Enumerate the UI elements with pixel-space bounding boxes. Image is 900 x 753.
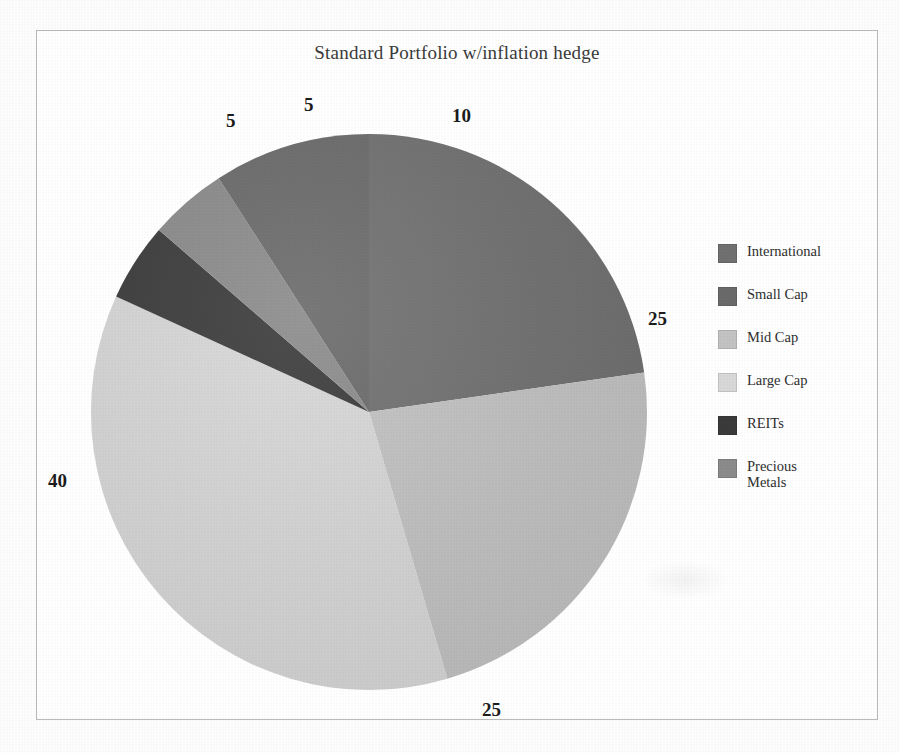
pie-chart: 5 5 10 25 25 40 [90,133,648,691]
pie-label-mid-cap: 25 [482,699,501,721]
legend-item-large-cap[interactable]: Large Cap [718,372,868,394]
pie-svg [90,133,648,691]
legend-swatch-reits [718,416,737,435]
legend-label-reits: REITs [747,415,784,431]
legend-swatch-small-cap [718,287,737,306]
legend-label-mid-cap: Mid Cap [747,329,798,345]
chart-title: Standard Portfolio w/inflation hedge [36,42,878,64]
legend-item-precious-metals[interactable]: Precious Metals [718,458,868,490]
legend-swatch-international [718,244,737,263]
legend-item-reits[interactable]: REITs [718,415,868,437]
pie-label-precious-metals: 5 [304,94,314,116]
pie-label-reits: 5 [226,110,236,132]
legend: International Small Cap Mid Cap Large Ca… [718,243,868,511]
legend-swatch-precious-metals [718,459,737,478]
legend-item-international[interactable]: International [718,243,868,265]
legend-swatch-mid-cap [718,330,737,349]
legend-label-international: International [747,243,821,259]
legend-item-mid-cap[interactable]: Mid Cap [718,329,868,351]
pie-label-large-cap: 40 [48,470,67,492]
legend-item-small-cap[interactable]: Small Cap [718,286,868,308]
pie-label-international: 25 [648,308,667,330]
legend-label-large-cap: Large Cap [747,372,808,388]
pie-label-small-cap: 10 [452,105,471,127]
legend-swatch-large-cap [718,373,737,392]
legend-label-precious-metals: Precious Metals [747,458,825,490]
legend-label-small-cap: Small Cap [747,286,808,302]
